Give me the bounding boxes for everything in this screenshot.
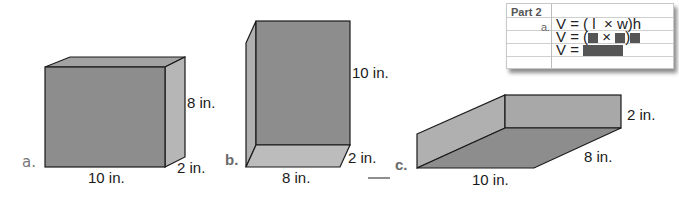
prism-c-height-label: 2 in. [627,106,655,123]
prism-a-height-label: 8 in. [187,94,215,111]
prism-b-bottom-face [246,145,350,167]
prism-a-length-label: 10 in. [88,169,125,186]
prism-a-width-label: 2 in. [177,159,205,176]
prism-b-back-face [256,21,350,145]
prism-b-letter: b. [225,151,238,168]
prism-c-length-label: 10 in. [472,171,509,188]
prism-a-front-face [45,67,165,167]
blank-box-width [615,33,625,43]
card-sub-label: a. [541,21,550,33]
blank-box-height [630,33,640,43]
prism-c-width-label: 8 in. [584,148,612,165]
prism-c-back-face [505,95,621,128]
prism-b: b. 8 in. 10 in. 2 in. [225,21,390,186]
prism-a-top-face [45,57,185,67]
card-divider [551,4,552,68]
blank-box-length [588,33,598,43]
prism-c-letter: c. [395,156,408,173]
card-title: Part 2 [511,6,542,18]
prism-a-side-face [165,57,185,167]
prism-b-height-label: 10 in. [352,64,389,81]
blank-bar-volume [583,45,623,56]
formula-card: Part 2 a. V = ( l × w)h V = ( × ) V = [506,3,674,69]
line3-prefix: V = [556,41,579,58]
formula-line-3: V = [556,43,623,57]
prism-b-length-label: 8 in. [282,169,310,186]
prism-b-side-face [246,21,256,167]
prism-c: c. 10 in. 8 in. 2 in. [395,95,655,188]
prism-b-width-label: 2 in. [348,149,376,166]
prism-a-letter: a. [22,153,36,171]
prism-a: a. 10 in. 8 in. 2 in. [22,57,215,186]
